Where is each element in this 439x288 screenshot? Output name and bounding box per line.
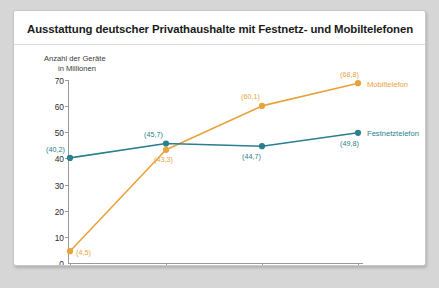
page-background: Ausstattung deutscher Privathaushalte mi… bbox=[0, 0, 439, 288]
data-point-mobiltelefon-2013 bbox=[355, 80, 361, 86]
point-label-festnetztelefon-2008: (44,7) bbox=[242, 152, 261, 161]
data-point-festnetztelefon-1998 bbox=[67, 155, 73, 161]
point-label-mobiltelefon-1998: (4,5) bbox=[76, 248, 91, 257]
point-label-mobiltelefon-2013: (68,8) bbox=[340, 70, 359, 79]
data-point-festnetztelefon-2008 bbox=[259, 143, 265, 149]
series-layer bbox=[14, 44, 425, 265]
chart-plot-area: Anzahl der Geräte in Millionen 70 60 50 … bbox=[14, 44, 425, 265]
data-point-mobiltelefon-1998 bbox=[67, 248, 73, 254]
data-point-mobiltelefon-2008 bbox=[259, 103, 265, 109]
data-point-festnetztelefon-2013 bbox=[355, 130, 361, 136]
data-point-festnetztelefon-2003 bbox=[163, 140, 169, 146]
data-point-mobiltelefon-2003 bbox=[163, 147, 169, 153]
legend-item-mobiltelefon: Mobiltelefon bbox=[367, 80, 408, 89]
series-line-mobiltelefon bbox=[70, 83, 358, 251]
point-label-festnetztelefon-2013: (49,8) bbox=[340, 139, 359, 148]
point-label-festnetztelefon-1998: (40,2) bbox=[46, 145, 65, 154]
series-line-festnetztelefon bbox=[70, 133, 358, 158]
chart-card: Ausstattung deutscher Privathaushalte mi… bbox=[13, 10, 426, 266]
point-label-mobiltelefon-2003: (43,3) bbox=[154, 155, 173, 164]
point-label-festnetztelefon-2003: (45,7) bbox=[144, 130, 163, 139]
point-label-mobiltelefon-2008: (60,1) bbox=[241, 92, 260, 101]
page-title: Ausstattung deutscher Privathaushalte mi… bbox=[27, 23, 417, 35]
legend-item-festnetztelefon: Festnetztelefon bbox=[367, 129, 419, 138]
